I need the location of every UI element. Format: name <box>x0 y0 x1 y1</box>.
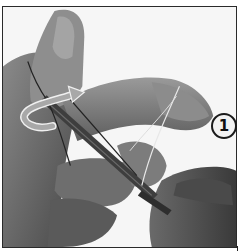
corner-tick <box>237 246 238 251</box>
instruction-photo <box>3 7 236 247</box>
step-number-badge: 1 <box>211 113 237 139</box>
photo-frame <box>2 6 237 248</box>
